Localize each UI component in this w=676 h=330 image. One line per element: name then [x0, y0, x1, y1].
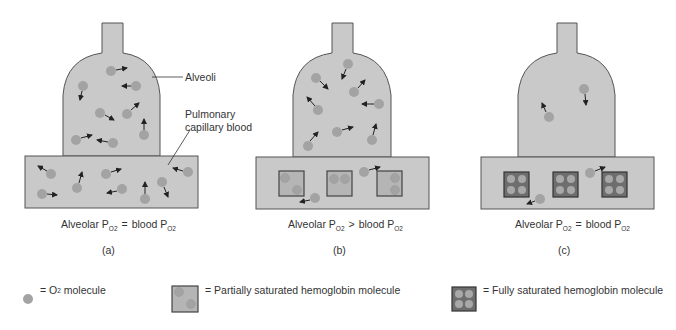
- panel-b: Alveolar PO2>blood PO2 (b): [256, 23, 429, 256]
- caption-c: Alveolar PO2=blood PO2: [515, 218, 630, 232]
- capillary-label-line2: capillary blood: [185, 121, 252, 133]
- panel-c: Alveolar PO2=blood PO2 (c): [481, 23, 654, 256]
- capillary-label-line1: Pulmonary: [185, 108, 236, 120]
- o2-molecule-icon: [23, 294, 33, 304]
- legend-partial-text: Partially saturated hemoglobin molecule: [214, 284, 400, 296]
- equals-sign: =: [205, 284, 211, 296]
- legend-o2-text-post: molecule: [61, 284, 106, 296]
- caption-a: Alveolar PO2=blood PO2: [61, 218, 176, 232]
- panel-letter-b: (b): [333, 244, 346, 256]
- legend-full: = Fully saturated hemoglobin molecule: [483, 284, 663, 296]
- partial-hemoglobin-icon: [172, 286, 198, 312]
- panel-a: Alveoli Pulmonary capillary blood Alveol…: [25, 23, 252, 256]
- legend-o2-text: O: [49, 284, 57, 296]
- alveoli-label: Alveoli: [185, 71, 216, 83]
- legend-partial: = Partially saturated hemoglobin molecul…: [205, 284, 400, 296]
- full-hemoglobin-icon: [452, 287, 476, 311]
- equals-sign: =: [40, 284, 46, 296]
- alveolus-shape: [518, 23, 615, 157]
- panel-letter-c: (c): [558, 244, 570, 256]
- equals-sign: =: [483, 284, 489, 296]
- panel-letter-a: (a): [102, 244, 115, 256]
- legend-o2: = O2 molecule: [40, 284, 106, 296]
- capillary-blood: [25, 156, 198, 208]
- caption-b: Alveolar PO2>blood PO2: [288, 218, 403, 232]
- legend-full-text: Fully saturated hemoglobin molecule: [492, 284, 663, 296]
- alveolus-shape: [293, 23, 391, 157]
